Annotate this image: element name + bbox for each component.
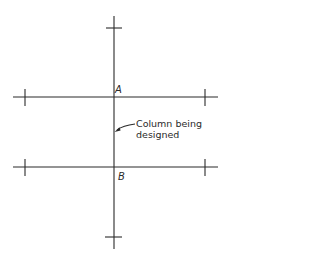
- point-b-label: B: [118, 172, 125, 182]
- leader-arrow-icon: [115, 127, 121, 132]
- point-a-label: A: [115, 85, 122, 95]
- annotation-line-1: Column being: [136, 118, 202, 129]
- annotation-line-2: designed: [136, 129, 202, 140]
- column-annotation: Column being designed: [136, 118, 202, 140]
